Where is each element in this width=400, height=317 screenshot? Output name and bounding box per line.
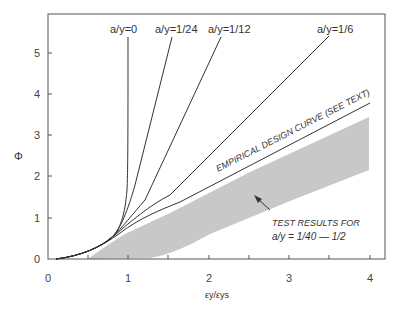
chart: 0 1 2 3 4 5 0 1 2 3 4 Φ εy/εys a/y=0 a/y… bbox=[0, 0, 400, 317]
test-results-label-line2: a/y = 1/40 — 1/2 bbox=[272, 231, 346, 242]
x-tick-2: 2 bbox=[206, 272, 212, 284]
label-a-y-0: a/y=0 bbox=[110, 23, 137, 35]
y-axis-label: Φ bbox=[14, 150, 23, 162]
y-tick-2: 2 bbox=[34, 170, 40, 182]
y-ticks bbox=[48, 53, 52, 218]
test-results-label-line1: TEST RESULTS FOR bbox=[272, 218, 360, 228]
x-tick-3: 3 bbox=[286, 272, 292, 284]
label-a-y-1-6: a/y=1/6 bbox=[317, 23, 353, 35]
y-tick-3: 3 bbox=[34, 129, 40, 141]
label-a-y-1-24: a/y=1/24 bbox=[155, 23, 198, 35]
x-axis-label: εy/εys bbox=[205, 290, 230, 300]
x-tick-1: 1 bbox=[125, 272, 131, 284]
y-tick-0: 0 bbox=[34, 253, 40, 265]
curve-a-y-0 bbox=[56, 37, 128, 259]
x-tick-4: 4 bbox=[367, 272, 373, 284]
x-tick-0: 0 bbox=[45, 272, 51, 284]
y-tick-4: 4 bbox=[34, 88, 40, 100]
y-tick-5: 5 bbox=[34, 47, 40, 59]
y-tick-1: 1 bbox=[34, 212, 40, 224]
label-a-y-1-12: a/y=1/12 bbox=[208, 23, 251, 35]
